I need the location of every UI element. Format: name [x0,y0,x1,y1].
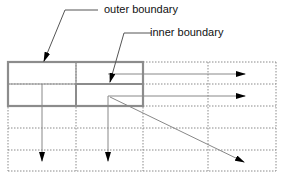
outer-boundary-label: outer boundary [104,3,178,15]
diagonal-arrow [110,97,244,162]
inner-boundary-label: inner boundary [150,26,223,38]
inner-leader-line [110,33,151,82]
leader-lines [44,10,151,82]
diagram-canvas [0,0,281,177]
outer-leader-line [44,10,98,61]
inner-boundary [76,84,143,106]
